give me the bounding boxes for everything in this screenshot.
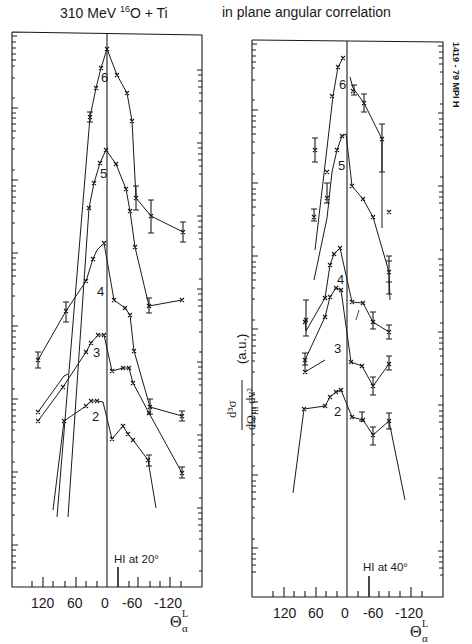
right-hi-annotation: HI at 40°: [363, 561, 408, 573]
right-label-6: 6: [339, 77, 346, 92]
left-series-5: [68, 150, 182, 517]
left-label-3: 3: [93, 345, 100, 360]
svg-text:-120: -120: [395, 605, 423, 621]
right-label-2: 2: [334, 404, 341, 419]
right-panel: [252, 40, 443, 597]
svg-text:α: α: [422, 632, 428, 644]
y-label-units: (a.u.): [234, 334, 249, 364]
right-label-4: 4: [337, 272, 344, 287]
left-label-6: 6: [101, 70, 108, 85]
right-series-3-low: [305, 360, 325, 372]
left-label-5: 5: [100, 166, 107, 181]
left-curves: [38, 49, 183, 517]
left-label-4: 4: [97, 284, 104, 299]
svg-text:120: 120: [273, 605, 297, 621]
y-label-denominator: dΩHI dv²: [244, 388, 260, 430]
svg-text:60: 60: [67, 595, 83, 611]
left-series-4: [38, 243, 182, 416]
svg-text:L: L: [182, 608, 188, 619]
svg-text:0: 0: [101, 595, 109, 611]
svg-text:0: 0: [341, 605, 349, 621]
right-series-2: [293, 390, 405, 500]
svg-text:-120: -120: [154, 595, 182, 611]
svg-text:-60: -60: [122, 595, 142, 611]
left-hi-annotation: HI at 20°: [114, 553, 159, 565]
svg-text:120: 120: [31, 595, 55, 611]
left-label-2: 2: [92, 409, 99, 424]
left-markers: [35, 47, 186, 478]
right-stray-mark: [356, 310, 359, 320]
svg-text:L: L: [422, 618, 428, 629]
annotations: HI at 20° HI at 40°: [114, 553, 408, 573]
svg-text:-60: -60: [363, 605, 383, 621]
right-label-5: 5: [338, 158, 345, 173]
y-label-numerator: d³σ: [224, 401, 239, 418]
x-axis-labels: ΘαL ΘαL: [170, 608, 428, 644]
svg-text:α: α: [182, 622, 188, 634]
left-series-2: [53, 401, 156, 510]
left-series-6: [57, 49, 183, 517]
svg-text:Θ: Θ: [170, 613, 182, 630]
svg-text:Θ: Θ: [410, 623, 422, 640]
left-series-4-lowbranch: [38, 374, 68, 412]
y-axis-label: d³σ dΩHI dv² (a.u.): [224, 334, 260, 430]
left-series-3: [38, 335, 182, 473]
svg-text:60: 60: [308, 605, 324, 621]
chart-canvas: 6 5 4 3 2 6 5 4 3 2 HI at 20° HI at 40° …: [0, 0, 472, 644]
right-label-3: 3: [334, 341, 341, 356]
left-panel: [12, 32, 202, 587]
right-curves: [293, 58, 405, 500]
x-tick-labels: 120600-60-120 120600-60-120: [31, 595, 423, 621]
